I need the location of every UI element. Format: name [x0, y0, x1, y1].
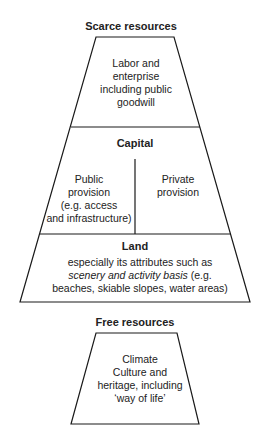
labor-line: enterprise: [80, 70, 192, 83]
private-line: provision: [138, 186, 218, 199]
land-description: especially its attributes such as scener…: [20, 256, 260, 295]
private-provision-block: Private provision: [138, 173, 218, 199]
public-line: Public: [45, 173, 133, 186]
free-line: Culture and: [80, 366, 200, 379]
free-line: Climate: [80, 353, 200, 366]
land-line-3: beaches, skiable slopes, water areas): [20, 282, 260, 295]
land-line-1: especially its attributes such as: [20, 256, 260, 269]
public-provision-block: Public provision (e.g. access and infras…: [45, 173, 133, 225]
public-line: and infrastructure): [45, 212, 133, 225]
free-resources-block: Climate Culture and heritage, including …: [80, 353, 200, 405]
land-italic-phrase: scenery and activity basis: [68, 269, 188, 281]
land-line-2: scenery and activity basis (e.g.: [20, 269, 260, 282]
free-resources-heading: Free resources: [0, 316, 262, 329]
public-line: provision: [45, 186, 133, 199]
land-line-2-rest: (e.g.: [188, 269, 212, 281]
labor-block: Labor and enterprise including public go…: [80, 57, 192, 109]
public-line: (e.g. access: [45, 199, 133, 212]
land-heading: Land: [0, 240, 262, 253]
capital-heading: Capital: [0, 137, 262, 150]
free-line: ‘way of life’: [80, 392, 200, 405]
private-line: Private: [138, 173, 218, 186]
scarce-resources-heading: Scarce resources: [0, 20, 262, 33]
labor-line: goodwill: [80, 96, 192, 109]
labor-line: Labor and: [80, 57, 192, 70]
free-line: heritage, including: [80, 379, 200, 392]
labor-line: including public: [80, 83, 192, 96]
